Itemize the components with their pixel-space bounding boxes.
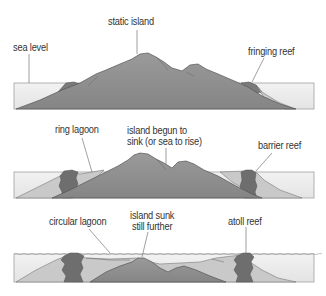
label-island-sunk-line2: still further <box>132 221 172 232</box>
island-mountain <box>16 53 296 109</box>
leader-line-circular-lagoon <box>89 229 110 253</box>
label-sea-level: sea level <box>13 42 48 53</box>
label-circular-lagoon: circular lagoon <box>49 216 106 227</box>
stage-2-barrier-reef <box>14 153 314 198</box>
stage-3-atoll <box>14 253 322 282</box>
label-atoll-reef: atoll reef <box>228 216 262 227</box>
label-barrier-reef: barrier reef <box>258 140 301 151</box>
label-ring-lagoon: ring lagoon <box>55 124 99 135</box>
leader-line-barrier-reef <box>256 153 272 171</box>
leader-line-ring-lagoon <box>82 138 92 172</box>
label-fringing-reef: fringing reef <box>248 46 295 57</box>
stage-1-static-island <box>14 53 314 109</box>
label-static-island: static island <box>108 16 154 27</box>
label-island-begun-line2: sink (or sea to rise) <box>127 136 202 147</box>
leader-line-fringing-reef <box>252 58 264 82</box>
